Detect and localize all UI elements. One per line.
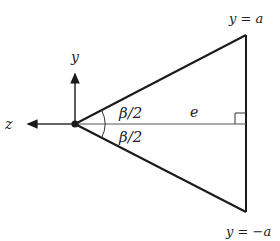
bottom-line-label: y = −a [225, 224, 271, 239]
top-line-label: y = a [228, 11, 263, 26]
z-axis-label: z [4, 116, 13, 132]
upper-half-angle-label: β/2 [118, 104, 142, 122]
y-axis-label: y [70, 49, 80, 65]
edge-label: e [190, 104, 198, 120]
wedge-diagram: y z y = a y = −a β/2 β/2 e [0, 0, 280, 241]
right-angle-marker [235, 113, 246, 124]
upper-edge [75, 35, 246, 124]
lower-edge [75, 124, 246, 212]
origin-point [71, 120, 78, 127]
lower-half-angle-label: β/2 [118, 128, 142, 146]
